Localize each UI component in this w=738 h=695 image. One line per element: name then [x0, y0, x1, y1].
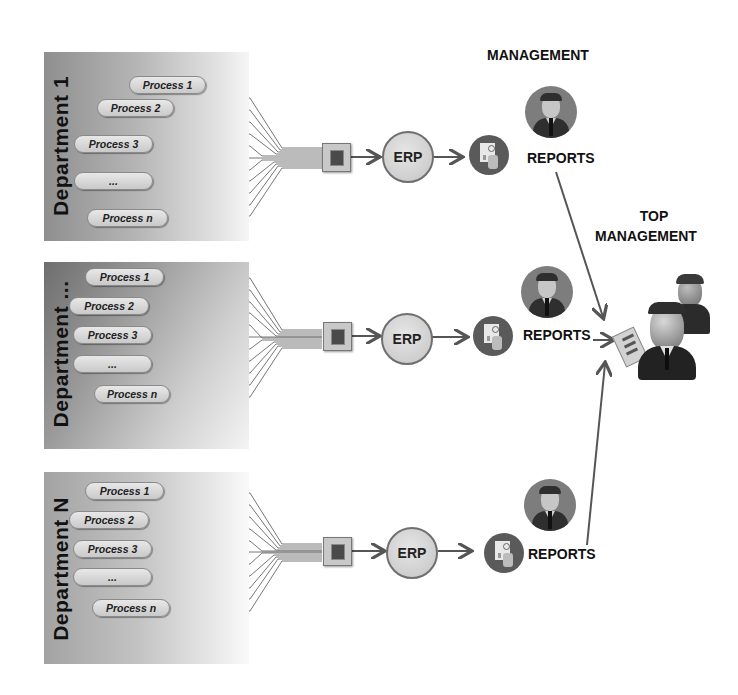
- top-management-label-line2: MANAGEMENT: [595, 228, 697, 244]
- department-panel-1: Department 1 Process 1 Process 2 Process…: [44, 52, 249, 241]
- department-panel-N: Department N Process 1 Process 2 Process…: [44, 472, 249, 664]
- data-connector-icon: [323, 537, 352, 566]
- department-panel-2: Department ... Process 1 Process 2 Proce…: [44, 262, 249, 449]
- reports-label: REPORTS: [528, 546, 596, 562]
- process-pill: Process 2: [69, 511, 149, 529]
- department-label: Department 1: [44, 58, 78, 233]
- process-pill: ...: [73, 355, 152, 373]
- process-pill: Process 2: [69, 297, 149, 315]
- reports-label: REPORTS: [523, 327, 591, 343]
- process-pill: Process 3: [73, 540, 152, 558]
- top-management-executives-icon: [612, 272, 730, 382]
- manager-avatar-icon: [525, 86, 577, 138]
- process-pill: Process 3: [74, 135, 153, 153]
- erp-node: ERP: [386, 527, 438, 579]
- reports-label: REPORTS: [527, 150, 595, 166]
- manager-avatar-icon: [521, 266, 573, 318]
- process-pill: Process 1: [85, 268, 164, 286]
- process-pill: Process 1: [129, 76, 206, 94]
- manager-avatar-icon: [524, 479, 576, 531]
- erp-node: ERP: [381, 313, 433, 365]
- report-document-icon: [469, 135, 509, 175]
- process-pill: ...: [74, 172, 153, 190]
- department-label: Department N: [44, 481, 78, 656]
- top-management-label-line1: TOP: [614, 208, 694, 224]
- data-connector-icon: [323, 322, 352, 351]
- process-pill: Process n: [92, 599, 170, 617]
- process-pill: Process 3: [73, 326, 152, 344]
- erp-node: ERP: [382, 131, 434, 183]
- report-document-icon: [473, 316, 513, 356]
- data-connector-icon: [322, 143, 351, 172]
- process-pill: Process n: [94, 385, 170, 403]
- process-pill: Process 2: [97, 99, 174, 117]
- report-document-icon: [484, 533, 524, 573]
- process-pill: Process 1: [85, 482, 164, 500]
- process-pill: Process n: [87, 209, 168, 227]
- management-label: MANAGEMENT: [487, 47, 589, 63]
- process-pill: ...: [73, 568, 152, 586]
- department-label: Department ...: [44, 266, 78, 441]
